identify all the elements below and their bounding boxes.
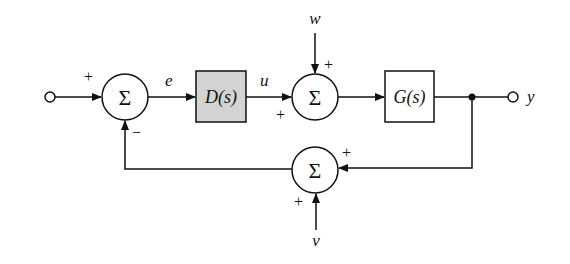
svg-text:D(s): D(s)	[204, 87, 237, 108]
feedback-line-left	[125, 121, 292, 169]
output-terminal	[508, 92, 518, 102]
sum3-bottom-plus-sign: +	[294, 193, 303, 210]
summing-junction-1: Σ	[102, 74, 148, 120]
input-terminal	[45, 92, 55, 102]
summing-junction-2: Σ	[292, 74, 338, 120]
summing-junction-3: Σ	[292, 147, 338, 193]
sum1-minus-sign: −	[132, 124, 141, 141]
svg-text:G(s): G(s)	[394, 87, 426, 108]
disturbance-label: w	[309, 9, 321, 28]
sum2-top-plus-sign: +	[324, 56, 333, 73]
output-label: y	[525, 87, 535, 106]
svg-text:Σ: Σ	[309, 158, 322, 183]
sum2-left-plus-sign: +	[276, 106, 285, 123]
error-label: e	[165, 71, 173, 90]
control-label: u	[260, 71, 269, 90]
plant-block: G(s)	[385, 71, 434, 122]
block-diagram: + Σ − e D(s) u + w + Σ G(s) y + Σ	[0, 0, 570, 264]
sum1-plus-sign: +	[84, 68, 93, 85]
noise-label: v	[312, 231, 320, 250]
controller-block: D(s)	[196, 71, 246, 122]
svg-text:Σ: Σ	[309, 85, 322, 110]
svg-text:Σ: Σ	[119, 85, 132, 110]
sum3-right-plus-sign: +	[342, 144, 351, 161]
